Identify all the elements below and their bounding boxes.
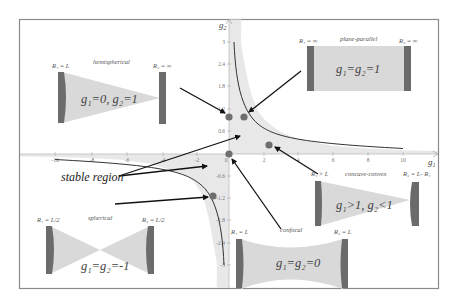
stability-diagram: -10 -8 -6 -4 -2 0 2 4 6 8 10 3 2.4 1.8 1… <box>0 0 454 304</box>
point-spherical <box>209 192 216 199</box>
hemispherical-title: hemispherical <box>93 58 130 65</box>
plane-parallel-r1-label: R₁ = ∞ <box>298 37 318 44</box>
point-plane-parallel <box>240 113 247 120</box>
point-hemispherical <box>225 113 232 120</box>
svg-text:-2: -2 <box>195 157 200 163</box>
svg-text:0.6: 0.6 <box>218 128 225 134</box>
plane-parallel-title: plane-parallel <box>339 35 377 42</box>
confocal-r2-label: R₂ = L <box>333 228 352 235</box>
mirror-flat-left <box>307 46 314 91</box>
confocal-equation: g₁=g₂=0 <box>276 256 321 270</box>
plane-parallel-equation: g₁=g₂=1 <box>336 62 380 76</box>
svg-text:-3: -3 <box>220 262 225 268</box>
svg-text:-2.4: -2.4 <box>216 240 225 246</box>
hemispherical-equation: g₁=0, g₂=1 <box>81 92 138 106</box>
point-concave-convex <box>265 141 272 148</box>
concave-convex-r1-label: R₁ > L <box>310 170 329 177</box>
spherical-r1-label: R₁ = L/2 <box>36 216 60 223</box>
confocal-title: confocal <box>280 226 303 233</box>
svg-text:-1.2: -1.2 <box>216 195 225 201</box>
svg-text:-1.8: -1.8 <box>216 217 225 223</box>
hemispherical-r2-label: R₂ = ∞ <box>152 62 172 69</box>
hemispherical-r1-label: R₁ = L <box>51 62 70 69</box>
spherical-r2-label: R₂ = L/2 <box>141 216 165 223</box>
mirror-flat-right <box>404 46 411 91</box>
svg-text:2: 2 <box>263 157 266 163</box>
svg-text:-6: -6 <box>125 157 130 163</box>
spherical-title: spherical <box>88 214 112 221</box>
point-confocal <box>225 150 232 157</box>
svg-text:3: 3 <box>222 39 225 45</box>
svg-text:2.4: 2.4 <box>218 61 225 67</box>
spherical-equation: g₁=g₂=-1 <box>81 259 129 273</box>
mirror-flat-right <box>159 72 166 124</box>
svg-text:10: 10 <box>400 157 406 163</box>
confocal-r1-label: R₁ = L <box>230 228 249 235</box>
svg-text:8: 8 <box>367 157 370 163</box>
concave-convex-equation: g₁>1, g₂<1 <box>336 198 393 212</box>
svg-text:6: 6 <box>332 157 335 163</box>
concave-convex-title: concave-convex <box>345 170 387 177</box>
svg-text:1.8: 1.8 <box>218 83 225 89</box>
concave-convex-r2-label: R₂ = L- R₁ <box>402 170 431 177</box>
svg-text:-0.6: -0.6 <box>216 173 225 179</box>
svg-text:0: 0 <box>225 157 228 163</box>
mirror-concave-left <box>58 72 66 123</box>
plane-parallel-r2-label: R₂ = ∞ <box>398 37 418 44</box>
stable-region-label: stable region <box>61 170 124 184</box>
